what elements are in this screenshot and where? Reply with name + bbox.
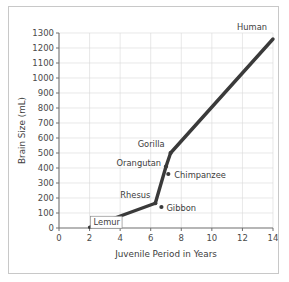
svg-text:14: 14	[268, 233, 278, 243]
svg-text:Orangutan: Orangutan	[117, 158, 161, 168]
svg-text:700: 700	[38, 118, 54, 128]
svg-text:400: 400	[38, 163, 54, 173]
vertical-gridlines	[90, 33, 273, 228]
svg-text:800: 800	[38, 103, 54, 113]
svg-text:8: 8	[179, 233, 184, 243]
svg-text:Chimpanzee: Chimpanzee	[174, 170, 226, 180]
svg-text:500: 500	[38, 148, 54, 158]
svg-text:900: 900	[38, 88, 54, 98]
svg-text:Gibbon: Gibbon	[166, 203, 196, 213]
y-axis-tick-labels: 0100200300400500600700800900100011001200…	[32, 28, 54, 233]
svg-text:200: 200	[38, 193, 54, 203]
svg-text:100: 100	[38, 208, 54, 218]
svg-text:12: 12	[237, 233, 248, 243]
svg-text:2: 2	[87, 233, 92, 243]
horizontal-gridlines	[59, 33, 273, 213]
axis-lines	[59, 33, 273, 228]
svg-text:0: 0	[49, 223, 54, 233]
chart-figure-frame: 0100200300400500600700800900100011001200…	[8, 6, 279, 274]
svg-text:6: 6	[148, 233, 153, 243]
svg-text:300: 300	[38, 178, 54, 188]
brain-size-line-chart: 0100200300400500600700800900100011001200…	[9, 7, 278, 273]
data-point-labels: LemurRhesusGibbonOrangutanChimpanzeeGori…	[91, 22, 267, 228]
svg-text:1000: 1000	[32, 73, 54, 83]
svg-text:10: 10	[206, 233, 217, 243]
svg-text:Gorilla: Gorilla	[138, 139, 165, 149]
svg-text:0: 0	[56, 233, 61, 243]
svg-text:600: 600	[38, 133, 54, 143]
svg-text:Lemur: Lemur	[94, 217, 121, 227]
x-axis-tick-labels: 02468101214	[56, 233, 278, 243]
y-axis-title: Brain Size (mL)	[17, 97, 27, 164]
svg-text:1300: 1300	[32, 28, 54, 38]
svg-text:Rhesus: Rhesus	[120, 190, 150, 200]
x-axis-title: Juvenile Period in Years	[114, 249, 217, 259]
svg-text:4: 4	[117, 233, 122, 243]
svg-text:1100: 1100	[32, 58, 54, 68]
svg-text:Human: Human	[237, 22, 267, 32]
svg-text:1200: 1200	[32, 43, 54, 53]
